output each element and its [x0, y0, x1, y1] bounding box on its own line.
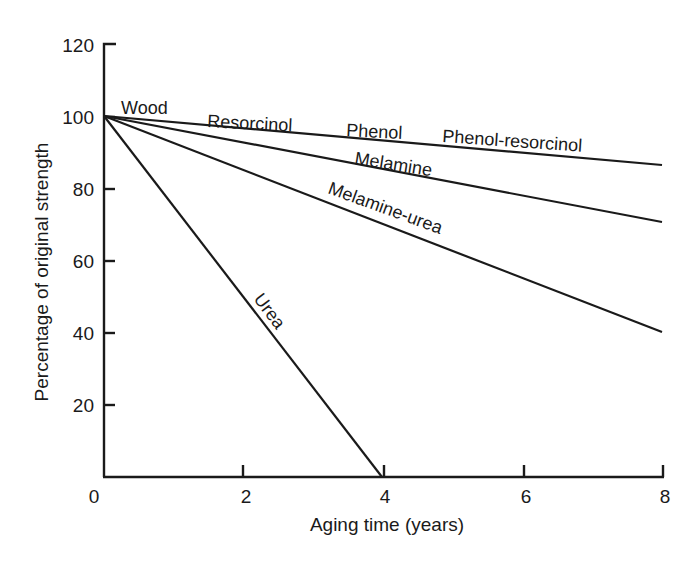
label-wood: Wood: [121, 98, 168, 118]
x-tick-label: 2: [241, 486, 252, 507]
x-tick-label: 0: [89, 486, 100, 507]
label-phenol: Phenol: [346, 120, 403, 143]
y-tick-label: 40: [73, 323, 94, 344]
y-tick-label: 80: [73, 179, 94, 200]
x-axis-title: Aging time (years): [310, 514, 464, 535]
label-melamine: Melamine: [353, 148, 433, 180]
x-tick-label: 6: [521, 486, 532, 507]
y-tick-labels: 20 40 60 80 100 120: [62, 35, 94, 416]
y-tick-label: 20: [73, 395, 94, 416]
y-tick-label: 60: [73, 251, 94, 272]
label-resorcinol: Resorcinol: [207, 111, 293, 135]
x-tick-label: 4: [380, 486, 391, 507]
x-tick-labels: 0 2 4 6 8: [89, 486, 671, 507]
x-tick-label: 8: [660, 486, 671, 507]
axes: [103, 44, 664, 477]
y-axis-title: Percentage of original strength: [31, 143, 52, 402]
aging-strength-chart: 20 40 60 80 100 120 0 2 4 6 8 Aging time…: [0, 0, 688, 562]
y-tick-label: 100: [62, 107, 94, 128]
y-tick-label: 120: [62, 35, 94, 56]
